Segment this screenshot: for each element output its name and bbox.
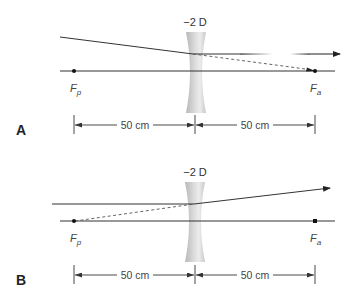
panel-label-a: A [16,122,26,138]
dimension-label-left: 50 cm [121,269,150,281]
dimension-lines: 50 cm 50 cm [74,265,315,284]
dimension-lines: 50 cm 50 cm [74,115,315,134]
focal-point-fa [313,219,317,223]
panel-a: −2 D Fp Fa 50 cm [16,16,340,138]
dimension-label-right: 50 cm [241,269,270,281]
focal-label-fp: Fp [70,232,82,247]
concave-lens-icon [186,32,206,113]
focal-label-fa: Fa [310,232,322,247]
focal-label-fp: Fp [70,82,82,97]
virtual-ray-dashed [75,204,194,221]
refracted-ray [194,188,330,204]
lens-power-label: −2 D [183,16,207,28]
concave-lens-icon [185,182,205,262]
dimension-label-left: 50 cm [121,119,150,131]
focal-point-fp [72,219,76,223]
focal-label-fa: Fa [310,82,322,97]
dimension-label-right: 50 cm [241,119,270,131]
lens-diagram: −2 D Fp Fa 50 cm [0,0,351,298]
incident-ray [60,37,193,54]
refracted-ray [193,53,340,54]
focal-point-fp [72,69,76,73]
panel-b: −2 D Fp Fa 50 cm 50 cm [16,166,335,288]
focal-point-fa [313,69,317,73]
panel-label-b: B [16,272,26,288]
lens-power-label: −2 D [183,166,207,178]
virtual-ray-dashed [193,54,313,70]
